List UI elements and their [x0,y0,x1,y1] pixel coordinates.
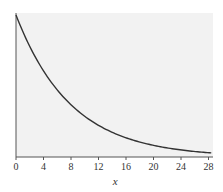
x-tick-label: 24 [176,161,186,172]
x-ticks: 0481216202428 [14,157,214,172]
x-tick-label: 4 [41,161,46,172]
chart: 0481216202428 x [0,0,223,192]
x-tick-label: 0 [14,161,19,172]
x-tick-label: 8 [69,161,74,172]
x-axis-label: x [112,175,118,187]
x-tick-label: 28 [204,161,214,172]
plot-area [16,13,213,157]
x-tick-label: 20 [149,161,159,172]
x-tick-label: 12 [94,161,104,172]
x-tick-label: 16 [121,161,131,172]
